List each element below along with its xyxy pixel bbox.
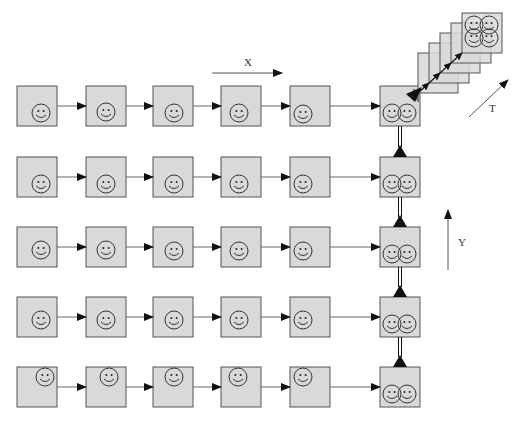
merge-cell — [380, 227, 420, 267]
cell-box — [17, 297, 57, 337]
cell-box — [86, 297, 126, 337]
time-stack — [406, 13, 502, 102]
grid-cell — [17, 227, 57, 267]
grid-cell — [17, 297, 57, 337]
cell-box — [290, 367, 330, 407]
grid-cell — [221, 227, 261, 267]
grid-cell — [153, 297, 193, 337]
cell-box — [86, 157, 126, 197]
cell-box — [153, 367, 193, 407]
cell-box — [290, 297, 330, 337]
grid-cell — [290, 227, 330, 267]
cell-box — [86, 227, 126, 267]
cell-box — [221, 86, 261, 126]
x-axis-label: X — [244, 56, 252, 68]
grid-cell — [153, 367, 193, 407]
cell-box — [17, 227, 57, 267]
grid-cell — [153, 227, 193, 267]
y-axis-indicator: Y — [448, 210, 466, 270]
grid-cell — [86, 297, 126, 337]
t-axis-label: T — [489, 102, 496, 114]
cell-box — [221, 227, 261, 267]
grid-cell — [86, 367, 126, 407]
grid-cell — [86, 86, 126, 126]
cell-box — [221, 367, 261, 407]
grid-cell — [221, 86, 261, 126]
cell-box — [221, 157, 261, 197]
merge-cell — [380, 297, 420, 337]
grid-cell — [290, 297, 330, 337]
grid-cell — [290, 157, 330, 197]
cell-box — [153, 227, 193, 267]
y-axis-label: Y — [458, 236, 466, 248]
cell-box — [290, 157, 330, 197]
cell-box — [153, 86, 193, 126]
merge-cell — [380, 157, 420, 197]
grid-cell — [17, 157, 57, 197]
grid-cell — [153, 157, 193, 197]
cell-box — [17, 157, 57, 197]
grid-cell — [290, 367, 330, 407]
x-axis-indicator: X — [212, 56, 282, 73]
up-arrow-icon — [393, 215, 407, 227]
cell-box — [86, 367, 126, 407]
grid-cell — [290, 86, 330, 126]
cell-box — [86, 86, 126, 126]
grid-cell — [86, 157, 126, 197]
cell-box — [153, 157, 193, 197]
cell-box — [221, 297, 261, 337]
up-arrow-icon — [393, 145, 407, 157]
up-arrow-icon — [393, 285, 407, 297]
up-arrow-icon — [393, 355, 407, 367]
grid-cell — [221, 297, 261, 337]
cell-box — [17, 86, 57, 126]
cell-box — [153, 297, 193, 337]
grid-diagram: X Y T — [0, 0, 522, 437]
grid-cell — [17, 86, 57, 126]
grid-cell — [86, 227, 126, 267]
cell-box — [290, 227, 330, 267]
t-axis-indicator: T — [469, 80, 508, 117]
grid-cell — [221, 367, 261, 407]
grid-cell — [153, 86, 193, 126]
grid-cell — [17, 367, 57, 407]
merge-cell — [380, 367, 420, 407]
grid-cell — [221, 157, 261, 197]
